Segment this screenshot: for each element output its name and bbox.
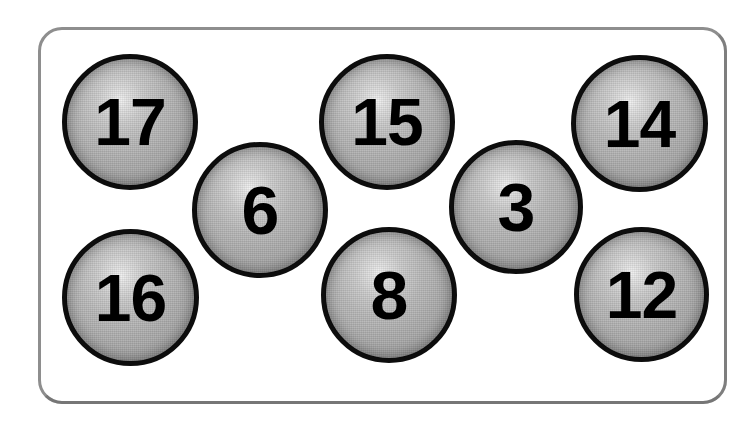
ball-scene: 1761531416812 [0, 0, 754, 428]
ball-16[interactable]: 16 [62, 229, 199, 366]
ball-12[interactable]: 12 [574, 227, 709, 362]
ball-3[interactable]: 3 [449, 140, 583, 274]
ball-17[interactable]: 17 [62, 54, 198, 190]
ball-number-label: 15 [351, 89, 422, 155]
ball-number-label: 12 [606, 262, 677, 328]
ball-15[interactable]: 15 [319, 54, 455, 190]
ball-number-label: 17 [94, 89, 165, 155]
ball-6[interactable]: 6 [192, 142, 328, 278]
ball-number-label: 6 [242, 176, 279, 244]
ball-number-label: 16 [95, 265, 166, 331]
ball-number-label: 14 [604, 91, 675, 157]
ball-14[interactable]: 14 [571, 55, 708, 192]
ball-8[interactable]: 8 [321, 227, 457, 363]
ball-number-label: 3 [498, 173, 535, 241]
ball-number-label: 8 [371, 261, 408, 329]
